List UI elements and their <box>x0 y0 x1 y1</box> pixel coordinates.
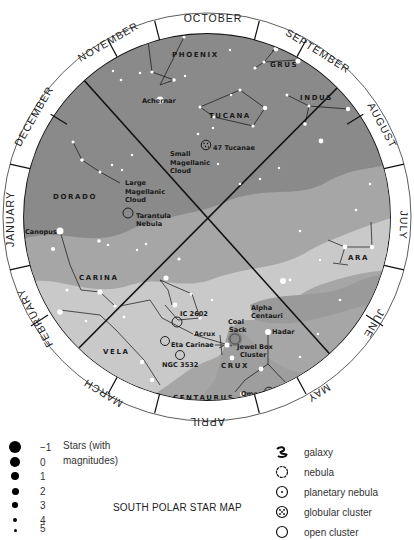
open-cluster-icon <box>274 524 290 540</box>
star-magnitude-icon <box>10 457 20 467</box>
star-magnitude-icon <box>12 488 19 495</box>
magnitude-value: 1 <box>40 471 46 482</box>
month-october: OCTOBER <box>184 12 243 24</box>
label-canopus: Canopus <box>25 228 57 236</box>
magnitude-value: 2 <box>40 486 46 497</box>
magnitude-value: 4 <box>40 515 46 526</box>
legend-label: open cluster <box>304 527 358 538</box>
label-coal-sack-2: Sack <box>229 326 247 334</box>
legend-nebula: nebula <box>274 464 290 480</box>
star-magnitude-icon <box>9 441 21 453</box>
label-achernar: Achernar <box>142 97 177 105</box>
label-acrux: Acrux <box>194 330 216 338</box>
label-indus: INDUS <box>300 94 333 102</box>
label-alpha-centauri-1: Alpha <box>251 304 272 312</box>
stars-caption-line1: Stars (with <box>63 438 118 453</box>
legend-label: nebula <box>304 467 334 478</box>
star-magnitude-icon <box>13 518 17 522</box>
label-smc-1: Small <box>170 150 191 158</box>
magnitude-row: 5 <box>0 526 30 534</box>
label-lmc-3: Cloud <box>125 196 146 204</box>
label-jewel-box-2: Cluster <box>240 351 267 359</box>
label-tarantula-1: Tarantula <box>136 212 171 220</box>
label-47-tucanae: 47 Tucanae <box>213 144 255 152</box>
magnitude-row: 2 <box>0 484 30 498</box>
nebula-icon <box>274 464 290 480</box>
legend-planetary-nebula: planetary nebula <box>274 484 290 500</box>
month-july: JULY <box>397 210 410 239</box>
label-grus: GRUS <box>270 61 298 69</box>
label-tarantula-2: Nebula <box>136 220 162 228</box>
label-coal-sack-1: Coal <box>228 318 244 326</box>
galaxy-icon <box>274 444 290 460</box>
label-smc-2: Magellanic <box>170 159 210 167</box>
star-map: PHOENIX GRUS TUCANA INDUS DORADO CARINA … <box>0 0 414 440</box>
magnitude-row: 0 <box>0 455 30 469</box>
magnitude-value: 3 <box>40 500 46 511</box>
label-lmc-2: Magellanic <box>125 188 165 196</box>
legend-galaxy: galaxy <box>274 444 290 460</box>
magnitude-value: −1 <box>40 442 51 453</box>
label-lmc-1: Large <box>125 179 147 187</box>
magnitude-row: 3 <box>0 498 30 512</box>
legend-label: planetary nebula <box>304 487 378 498</box>
star-magnitude-icon <box>12 502 18 508</box>
label-eta-carinae: Eta Carinae <box>171 341 214 349</box>
label-carina: CARINA <box>79 274 118 282</box>
legend-label: globular cluster <box>304 507 372 518</box>
magnitude-value: 5 <box>40 523 46 534</box>
magnitude-value: 0 <box>40 457 46 468</box>
label-ara: ARA <box>348 254 369 262</box>
star-magnitude-icon <box>14 529 17 532</box>
map-title: SOUTH POLAR STAR MAP <box>113 502 242 513</box>
globular-cluster-icon <box>274 504 290 520</box>
label-crux: CRUX <box>221 362 249 370</box>
label-ngc3532: NGC 3532 <box>162 361 199 369</box>
legend-globular-cluster: globular cluster <box>274 504 290 520</box>
legend-label: galaxy <box>304 447 333 458</box>
label-ic2602: IC 2602 <box>180 310 208 318</box>
magnitude-row: 1 <box>0 469 30 483</box>
label-jewel-box-1: Jewel Box <box>236 343 274 351</box>
label-tucana: TUCANA <box>209 112 251 120</box>
month-april: APRIL <box>189 416 224 428</box>
legend-open-cluster: open cluster <box>274 524 290 540</box>
magnitude-row: −1 <box>0 440 30 454</box>
label-hadar: Hadar <box>272 328 295 336</box>
stars-caption: Stars (with magnitudes) <box>63 438 118 468</box>
stars-caption-line2: magnitudes) <box>63 453 118 468</box>
star-magnitude-icon <box>11 472 20 481</box>
label-vela: VELA <box>103 348 129 356</box>
label-smc-3: Cloud <box>170 167 191 175</box>
label-phoenix: PHOENIX <box>172 51 219 59</box>
month-january: JANUARY <box>4 191 16 247</box>
magnitude-row: 4 <box>0 513 30 527</box>
label-alpha-centauri-2: Centauri <box>251 312 283 320</box>
planetary-nebula-icon <box>274 484 290 500</box>
label-dorado: DORADO <box>53 193 97 201</box>
